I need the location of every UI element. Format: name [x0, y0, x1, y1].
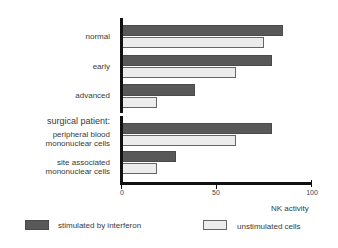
- category-label-site-line2: mononuclear cells: [46, 167, 110, 176]
- category-label-normal: normal: [86, 32, 110, 41]
- x-tick-100: [311, 180, 312, 187]
- x-tick-label-100: 100: [306, 189, 318, 196]
- x-tick-label-0: 0: [120, 189, 124, 196]
- bar-early-stimulated: [122, 55, 272, 66]
- x-axis-title: NK activity: [271, 204, 309, 213]
- x-tick-label-50: 50: [212, 189, 220, 196]
- y-axis-lower: [120, 116, 123, 185]
- category-label-peripheral-line2: mononuclear cells: [46, 139, 110, 148]
- legend-label-stimulated: stimulated by interferon: [58, 221, 141, 230]
- category-label-advanced: advanced: [75, 91, 110, 100]
- bar-advanced-stimulated: [122, 84, 195, 96]
- bar-peripheral-stimulated: [122, 123, 272, 134]
- legend-label-unstimulated: unstimulated cells: [237, 222, 301, 231]
- bar-site-unstimulated: [122, 163, 157, 174]
- legend-swatch-unstimulated: [203, 220, 227, 230]
- category-label-site-line1: site associated: [57, 158, 110, 167]
- legend-swatch-stimulated: [25, 220, 49, 230]
- y-axis-upper: [120, 18, 123, 113]
- bar-normal-unstimulated: [122, 37, 264, 48]
- category-label-peripheral-line1: peripheral blood: [53, 130, 110, 139]
- bar-early-unstimulated: [122, 67, 236, 78]
- category-label-early: early: [93, 62, 110, 71]
- bar-advanced-unstimulated: [122, 97, 157, 108]
- section-label-surgical-patient: surgical patient:: [47, 117, 110, 126]
- bar-peripheral-unstimulated: [122, 135, 236, 146]
- bar-site-stimulated: [122, 151, 176, 162]
- bar-normal-stimulated: [122, 25, 283, 36]
